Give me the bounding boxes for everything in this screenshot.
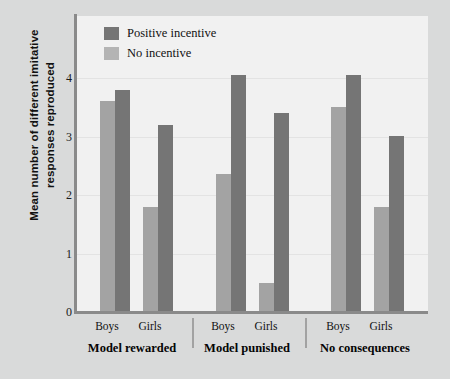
- gridline-4: [77, 78, 428, 79]
- bar-model-rewarded-boys-no-incentive: [100, 101, 115, 312]
- bar-model-punished-boys-positive-incentive: [231, 75, 246, 312]
- bar-no-consequences-boys-no-incentive: [331, 107, 346, 312]
- legend-label-positive-incentive: Positive incentive: [127, 26, 216, 41]
- group-label-no-consequences: No consequences: [302, 341, 428, 356]
- y-axis-title-wrapper: Mean number of different imitative respo…: [23, 0, 63, 250]
- x-label-girls-model-punished: Girls: [243, 320, 289, 332]
- x-label-boys-model-rewarded: Boys: [84, 320, 130, 332]
- x-label-girls-no-consequences: Girls: [358, 320, 404, 332]
- bar-no-consequences-girls-no-incentive: [374, 207, 389, 312]
- y-axis-title: Mean number of different imitative respo…: [27, 0, 58, 250]
- bar-model-punished-girls-positive-incentive: [274, 113, 289, 312]
- x-label-girls-model-rewarded: Girls: [127, 320, 173, 332]
- y-axis-line: [74, 14, 77, 314]
- group-label-model-rewarded: Model rewarded: [72, 341, 192, 356]
- legend: Positive incentive No incentive: [104, 26, 216, 66]
- x-axis-line: [74, 311, 428, 314]
- plot-area: Positive incentive No incentive: [77, 16, 428, 312]
- bar-model-punished-boys-no-incentive: [216, 174, 231, 312]
- legend-item-no-incentive: No incentive: [104, 46, 216, 61]
- y-tick-0: 0: [50, 305, 72, 320]
- x-label-boys-no-consequences: Boys: [315, 320, 361, 332]
- legend-item-positive-incentive: Positive incentive: [104, 26, 216, 41]
- legend-label-no-incentive: No incentive: [127, 46, 191, 61]
- bar-no-consequences-boys-positive-incentive: [346, 75, 361, 312]
- group-label-model-punished: Model punished: [189, 341, 305, 356]
- bar-model-rewarded-girls-no-incentive: [143, 207, 158, 312]
- bar-no-consequences-girls-positive-incentive: [389, 136, 404, 312]
- x-label-boys-model-punished: Boys: [200, 320, 246, 332]
- bar-model-rewarded-boys-positive-incentive: [115, 90, 130, 312]
- legend-swatch-no-incentive: [104, 47, 119, 60]
- legend-swatch-positive-incentive: [104, 27, 119, 40]
- bar-model-punished-girls-no-incentive: [259, 283, 274, 312]
- bar-model-rewarded-girls-positive-incentive: [158, 125, 173, 312]
- bar-chart: Positive incentive No incentive 4 3 2 1 …: [0, 0, 450, 379]
